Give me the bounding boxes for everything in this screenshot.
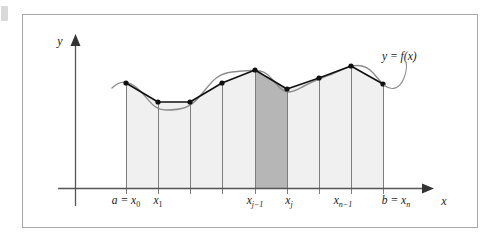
trapezoid-6 — [287, 78, 319, 188]
vertex-dot — [316, 75, 321, 80]
y-axis-label: y — [56, 34, 63, 48]
tick-label-x0-sub: 0 — [136, 200, 140, 209]
vertex-dot — [187, 99, 192, 104]
tick-label-xn-sub: n — [406, 200, 410, 209]
trapezoid-8 — [351, 66, 383, 188]
x-axis-label: x — [440, 194, 447, 208]
vertex-dot — [155, 99, 160, 104]
trapezoid-2 — [158, 102, 190, 188]
curve-label-text: y = f(x) — [381, 50, 417, 63]
tick-label-xjm1-sub: j−1 — [251, 200, 264, 209]
curve-label: y = f(x) — [381, 50, 417, 63]
trapezoid-7 — [319, 66, 351, 188]
vertex-dot — [219, 80, 224, 85]
vertex-dot — [284, 86, 289, 91]
tick-label-x0-main: a = x — [112, 194, 137, 206]
tick-label-xnm1-sub: n−1 — [339, 200, 352, 209]
tick-label-x1-sub: 1 — [159, 200, 163, 209]
vertex-dot — [123, 80, 128, 85]
vertex-dot — [348, 63, 353, 68]
trapezoid-5-highlighted — [255, 70, 287, 188]
trapezoidal-rule-figure: y x y = f(x) a = x0 x1 xj−1 xj xn−1 — [0, 0, 491, 242]
tick-label-xn-main: b = x — [382, 194, 407, 206]
vertex-dot — [252, 67, 257, 72]
trapezoid-4 — [222, 70, 255, 188]
figure-container: y x y = f(x) a = x0 x1 xj−1 xj xn−1 — [0, 0, 491, 242]
